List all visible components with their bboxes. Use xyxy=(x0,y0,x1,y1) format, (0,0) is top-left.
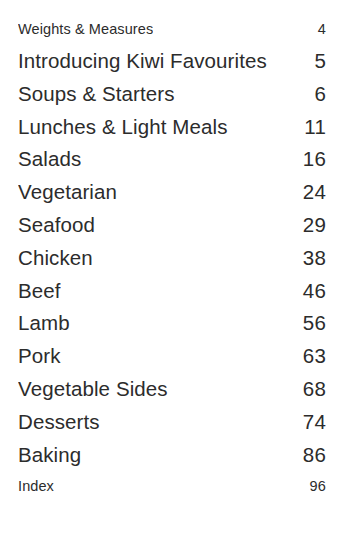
toc-entry-title: Lunches & Light Meals xyxy=(18,111,228,144)
toc-entry[interactable]: Vegetarian24 xyxy=(18,176,328,209)
toc-entry-title: Soups & Starters xyxy=(18,78,175,111)
toc-entry-page-number: 63 xyxy=(300,340,328,373)
toc-entry-page-number: 5 xyxy=(300,45,328,78)
toc-entry-page-number: 4 xyxy=(300,14,328,45)
toc-entry-title: Index xyxy=(18,471,54,502)
toc-entry-title: Salads xyxy=(18,143,81,176)
toc-entry-title: Pork xyxy=(18,340,61,373)
toc-entry-page-number: 38 xyxy=(300,242,328,275)
toc-entry-title: Desserts xyxy=(18,406,100,439)
toc-entry-page-number: 24 xyxy=(300,176,328,209)
toc-entry-title: Introducing Kiwi Favourites xyxy=(18,45,267,78)
toc-entry-page-number: 86 xyxy=(300,439,328,472)
toc-entry[interactable]: Lamb56 xyxy=(18,307,328,340)
toc-entry[interactable]: Salads16 xyxy=(18,143,328,176)
toc-entry[interactable]: Soups & Starters6 xyxy=(18,78,328,111)
toc-entry-page-number: 74 xyxy=(300,406,328,439)
toc-entry-title: Baking xyxy=(18,439,81,472)
toc-entry-title: Lamb xyxy=(18,307,70,340)
toc-entry-title: Weights & Measures xyxy=(18,14,153,45)
toc-entry[interactable]: Introducing Kiwi Favourites5 xyxy=(18,45,328,78)
table-of-contents-list: Weights & Measures4Introducing Kiwi Favo… xyxy=(18,14,328,502)
toc-entry-page-number: 96 xyxy=(300,471,328,502)
toc-entry[interactable]: Lunches & Light Meals11 xyxy=(18,111,328,144)
toc-entry[interactable]: Chicken38 xyxy=(18,242,328,275)
toc-entry-title: Beef xyxy=(18,275,61,308)
toc-entry-page-number: 16 xyxy=(300,143,328,176)
toc-entry-page-number: 29 xyxy=(300,209,328,242)
toc-entry[interactable]: Beef46 xyxy=(18,275,328,308)
toc-entry-title: Vegetable Sides xyxy=(18,373,168,406)
toc-entry[interactable]: Desserts74 xyxy=(18,406,328,439)
toc-entry-title: Chicken xyxy=(18,242,93,275)
toc-entry-page-number: 56 xyxy=(300,307,328,340)
toc-entry[interactable]: Baking86 xyxy=(18,439,328,472)
toc-entry[interactable]: Seafood29 xyxy=(18,209,328,242)
toc-entry-page-number: 6 xyxy=(300,78,328,111)
table-of-contents-page: Weights & Measures4Introducing Kiwi Favo… xyxy=(0,0,348,533)
toc-entry-page-number: 46 xyxy=(300,275,328,308)
toc-entry-title: Seafood xyxy=(18,209,95,242)
toc-entry-title: Vegetarian xyxy=(18,176,117,209)
toc-entry[interactable]: Vegetable Sides68 xyxy=(18,373,328,406)
toc-entry[interactable]: Index96 xyxy=(18,471,328,502)
toc-entry-page-number: 11 xyxy=(300,111,328,144)
toc-entry-page-number: 68 xyxy=(300,373,328,406)
toc-entry[interactable]: Pork63 xyxy=(18,340,328,373)
toc-entry[interactable]: Weights & Measures4 xyxy=(18,14,328,45)
